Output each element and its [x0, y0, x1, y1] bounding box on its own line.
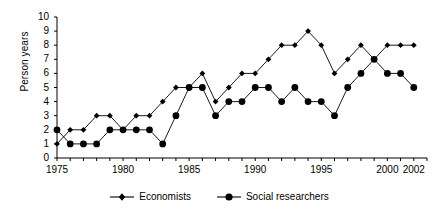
chart-legend: Economists Social researchers [0, 192, 439, 202]
chart-series [54, 28, 418, 147]
series-social-researchers [54, 56, 418, 147]
y-tick-label: 8 [31, 40, 49, 50]
x-tick-label: 1975 [37, 165, 77, 175]
line-chart-figure: Person years 012345678910 19751980198519… [0, 0, 439, 219]
x-tick-label: 1980 [103, 165, 143, 175]
y-tick-label: 7 [31, 54, 49, 64]
circle-marker-icon [217, 192, 241, 202]
y-tick-label: 10 [31, 12, 49, 22]
y-tick-label: 0 [31, 153, 49, 163]
y-tick-label: 4 [31, 97, 49, 107]
y-tick-label: 1 [31, 139, 49, 149]
y-tick-label: 3 [31, 111, 49, 121]
diamond-marker-icon [110, 192, 134, 202]
legend-item-social-researchers[interactable]: Social researchers [217, 192, 329, 202]
x-tick-label: 2002 [394, 165, 434, 175]
x-tick-label: 1990 [235, 165, 275, 175]
legend-label-social-researchers: Social researchers [246, 192, 329, 202]
x-tick-label: 1995 [301, 165, 341, 175]
legend-label-economists: Economists [139, 192, 191, 202]
y-tick-label: 6 [31, 68, 49, 78]
x-tick-label: 1985 [169, 165, 209, 175]
y-tick-label: 2 [31, 125, 49, 135]
chart-axes [54, 17, 427, 161]
y-tick-label: 5 [31, 83, 49, 93]
y-tick-label: 9 [31, 26, 49, 36]
legend-item-economists[interactable]: Economists [110, 192, 191, 202]
chart-plot-area [0, 0, 439, 219]
